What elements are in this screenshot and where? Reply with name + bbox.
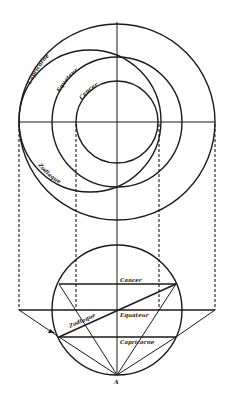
label-cancer-elevation: Cancer <box>120 277 143 283</box>
label-equator-plan: Equateur <box>55 66 80 94</box>
label-capricorn-plan: Capricorne <box>26 52 50 85</box>
arrow-head-icon <box>48 329 55 333</box>
label-equator-elevation: Equateur <box>119 312 150 319</box>
label-point-a: A <box>113 378 119 385</box>
ecliptic-circle <box>19 50 161 192</box>
plan-view: Capricorne Equateur Cancer Zodiaque <box>19 22 215 375</box>
astrolabe-projection-diagram: Capricorne Equateur Cancer Zodiaque Canc… <box>0 0 232 394</box>
ray-a-capricorn-left <box>59 337 117 375</box>
label-capricorn-elevation: Capricorne <box>120 339 155 346</box>
label-ecliptic-plan: Zodiaque <box>37 161 63 185</box>
label-cancer-plan: Cancer <box>78 81 100 101</box>
ray-a-cancer-left <box>59 284 117 375</box>
